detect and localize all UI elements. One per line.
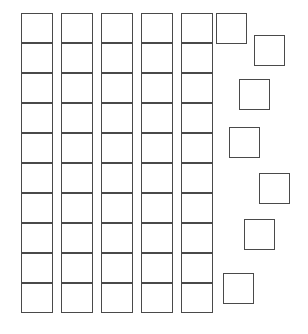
grid-cell[interactable] bbox=[21, 283, 53, 313]
grid-cell[interactable] bbox=[101, 193, 133, 223]
grid-cell[interactable] bbox=[61, 193, 93, 223]
grid-cell[interactable] bbox=[61, 283, 93, 313]
grid-cell[interactable] bbox=[181, 103, 213, 133]
grid-cell[interactable] bbox=[141, 73, 173, 103]
grid-cell[interactable] bbox=[21, 223, 53, 253]
scattered-square-3[interactable] bbox=[239, 79, 270, 110]
grid-cell[interactable] bbox=[101, 163, 133, 193]
grid-cell[interactable] bbox=[181, 253, 213, 283]
grid-cell[interactable] bbox=[101, 283, 133, 313]
grid-cell[interactable] bbox=[141, 133, 173, 163]
grid-cell[interactable] bbox=[141, 253, 173, 283]
scattered-square-1[interactable] bbox=[216, 13, 247, 44]
grid-cell[interactable] bbox=[101, 133, 133, 163]
grid-cell[interactable] bbox=[61, 73, 93, 103]
grid-cell[interactable] bbox=[181, 163, 213, 193]
grid-cell[interactable] bbox=[101, 13, 133, 43]
grid-cell[interactable] bbox=[181, 133, 213, 163]
scattered-square-5[interactable] bbox=[259, 173, 290, 204]
grid-cell[interactable] bbox=[21, 73, 53, 103]
grid-cell[interactable] bbox=[141, 43, 173, 73]
grid-cell[interactable] bbox=[61, 163, 93, 193]
grid-cell[interactable] bbox=[21, 43, 53, 73]
grid-cell[interactable] bbox=[181, 43, 213, 73]
grid-cell[interactable] bbox=[21, 133, 53, 163]
grid-cell[interactable] bbox=[181, 283, 213, 313]
grid-cell[interactable] bbox=[21, 193, 53, 223]
grid-cell[interactable] bbox=[21, 163, 53, 193]
grid-cell[interactable] bbox=[21, 103, 53, 133]
scattered-square-2[interactable] bbox=[254, 35, 285, 66]
grid-cell[interactable] bbox=[21, 253, 53, 283]
grid-cell[interactable] bbox=[141, 103, 173, 133]
grid-cell[interactable] bbox=[61, 253, 93, 283]
grid-cell[interactable] bbox=[141, 193, 173, 223]
grid-cell[interactable] bbox=[181, 193, 213, 223]
grid-cell[interactable] bbox=[181, 73, 213, 103]
grid-cell[interactable] bbox=[61, 13, 93, 43]
grid-cell[interactable] bbox=[61, 223, 93, 253]
figure-title: Grid of squares with scattered squares bbox=[0, 0, 1, 1]
scattered-square-6[interactable] bbox=[244, 219, 275, 250]
grid-cell[interactable] bbox=[141, 283, 173, 313]
grid-cell[interactable] bbox=[101, 223, 133, 253]
grid-cell[interactable] bbox=[101, 103, 133, 133]
grid-cell[interactable] bbox=[101, 43, 133, 73]
grid-cell[interactable] bbox=[21, 13, 53, 43]
grid-cell[interactable] bbox=[181, 223, 213, 253]
scattered-square-4[interactable] bbox=[229, 127, 260, 158]
grid-cell[interactable] bbox=[61, 43, 93, 73]
grid-cell[interactable] bbox=[61, 103, 93, 133]
figure-canvas: Grid of squares with scattered squares bbox=[0, 0, 308, 334]
grid-cell[interactable] bbox=[141, 13, 173, 43]
grid-cell[interactable] bbox=[141, 163, 173, 193]
scattered-square-7[interactable] bbox=[223, 273, 254, 304]
grid-cell[interactable] bbox=[101, 73, 133, 103]
grid-cell[interactable] bbox=[61, 133, 93, 163]
grid-cell[interactable] bbox=[101, 253, 133, 283]
grid-cell[interactable] bbox=[181, 13, 213, 43]
grid-cell[interactable] bbox=[141, 223, 173, 253]
